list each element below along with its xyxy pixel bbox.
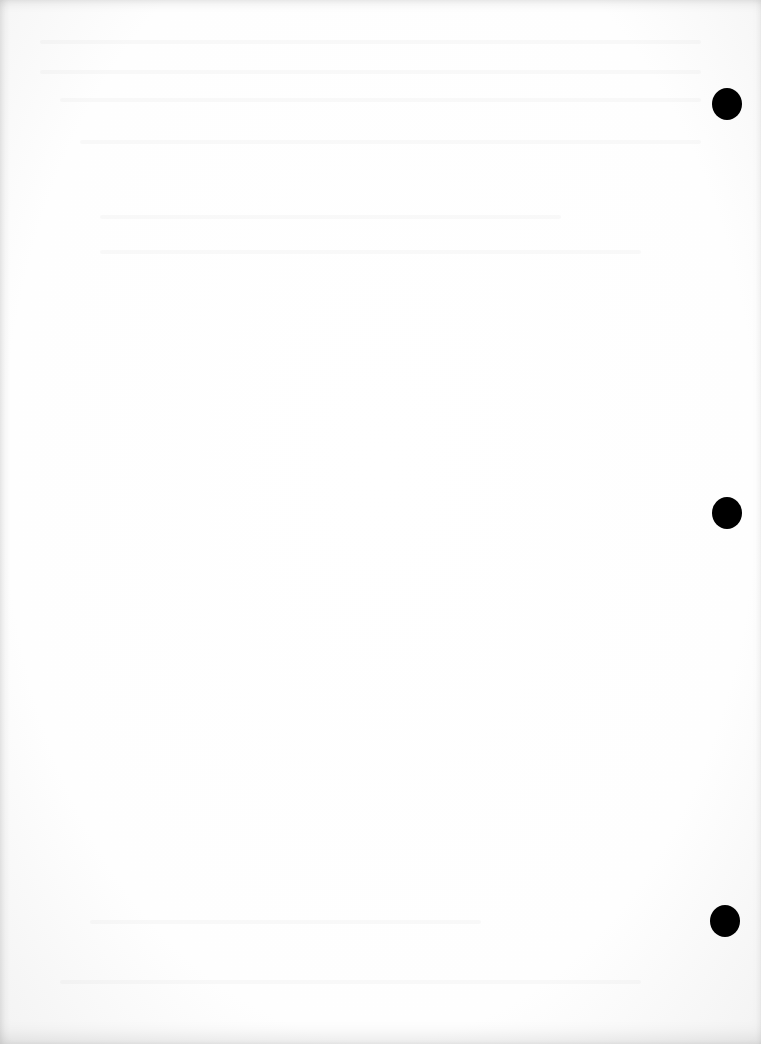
bleed-through-line	[100, 215, 561, 219]
bleed-through-line	[60, 98, 701, 102]
bleed-through-line	[60, 980, 641, 984]
bleed-through-line	[90, 920, 481, 924]
bleed-through-line	[40, 40, 701, 44]
punch-hole	[710, 905, 740, 937]
bleed-through-line	[80, 140, 701, 144]
scanned-page	[0, 0, 761, 1044]
bleed-through-line	[40, 70, 701, 74]
punch-hole	[712, 497, 742, 529]
bleed-through-line	[100, 250, 641, 254]
punch-hole	[712, 88, 742, 120]
